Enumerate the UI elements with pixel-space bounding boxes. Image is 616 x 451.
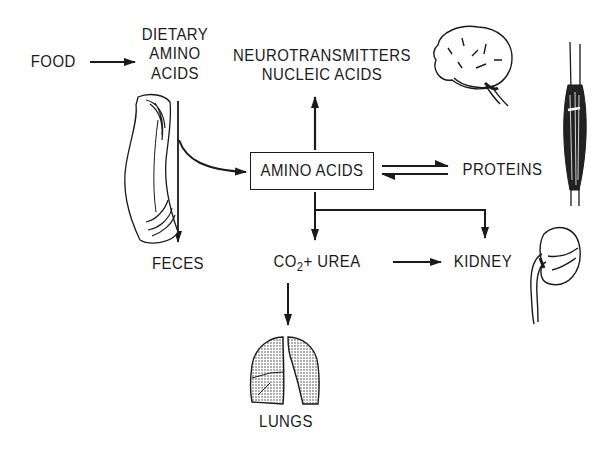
lungs-icon: [251, 337, 320, 404]
intestine-icon: [125, 95, 178, 244]
kidney-icon: [531, 227, 580, 324]
label-dietary-line3: ACIDS: [140, 64, 210, 84]
label-dietary-line1: DIETARY: [140, 25, 210, 45]
muscle-icon: [564, 42, 586, 206]
label-proteins: PROTEINS: [461, 160, 545, 180]
label-co2-subscript: 2: [297, 259, 304, 274]
label-food: FOOD: [31, 52, 71, 72]
brain-icon: [434, 26, 512, 106]
label-neurotransmitters: NEUROTRANSMITTERS: [225, 46, 419, 66]
label-nucleic-acids: NUCLEIC ACIDS: [260, 65, 383, 85]
label-lungs: LUNGS: [256, 412, 316, 432]
label-urea: + UREA: [304, 252, 361, 271]
label-co2: CO: [273, 252, 296, 271]
label-dietary-line2: AMINO: [140, 44, 210, 64]
branch-to-kidney: [315, 210, 485, 238]
label-kidney: KIDNEY: [451, 252, 514, 272]
label-amino-acids: AMINO ACIDS: [257, 161, 366, 181]
arrow-absorption-curve: [179, 140, 246, 172]
label-co2-urea: CO2+ UREA: [269, 252, 366, 277]
label-feces: FECES: [149, 254, 207, 274]
